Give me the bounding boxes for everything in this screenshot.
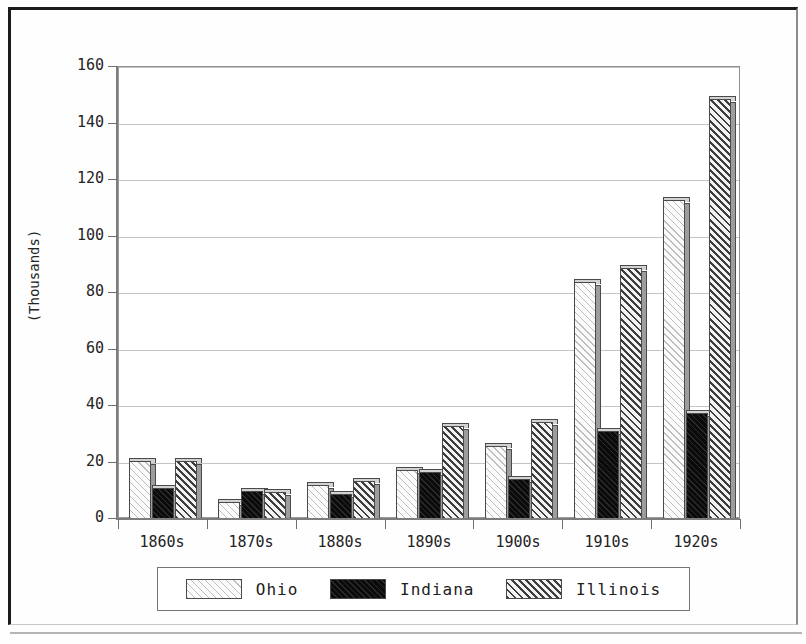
x-axis-tick-label: 1880s <box>295 533 385 551</box>
chart-page: (Thousands) 020406080100120140160 1860s1… <box>0 0 806 644</box>
bar-ohio-1870s <box>218 502 240 519</box>
legend-item-ohio[interactable]: Ohio <box>186 579 299 599</box>
y-axis-tick <box>108 236 117 237</box>
bar-indiana-1920s <box>686 413 708 519</box>
bar-side-face <box>197 464 202 519</box>
gridline <box>119 67 739 68</box>
y-axis-tick-label: 0 <box>42 510 104 525</box>
bar-ohio-1880s <box>307 485 329 519</box>
y-axis-tick <box>108 123 117 124</box>
y-axis-tick-label: 40 <box>42 397 104 412</box>
bar-side-face <box>731 102 736 519</box>
plot-area <box>118 66 740 518</box>
legend-label: Illinois <box>576 580 661 599</box>
bar-ohio-1910s <box>574 282 596 519</box>
y-axis-tick-label: 140 <box>42 115 104 130</box>
y-axis-tick <box>108 66 117 67</box>
bar-indiana-1860s <box>152 488 174 519</box>
bar-indiana-1870s <box>241 491 263 519</box>
y-axis-tick-label: 80 <box>42 284 104 299</box>
y-axis-tick <box>108 292 117 293</box>
y-axis-tick <box>108 405 117 406</box>
gridline <box>119 180 739 181</box>
bar-illinois-1920s <box>709 99 731 519</box>
x-axis-tick <box>296 519 297 529</box>
bar-indiana-1900s <box>508 479 530 519</box>
bar-illinois-1860s <box>175 461 197 519</box>
x-axis-tick <box>207 519 208 529</box>
y-axis-tick <box>108 179 117 180</box>
x-axis-tick-label: 1900s <box>473 533 563 551</box>
y-axis-tick <box>108 462 117 463</box>
bar-side-face <box>375 484 380 519</box>
x-axis-tick <box>562 519 563 529</box>
bar-indiana-1910s <box>597 431 619 519</box>
x-axis-tick-label: 1890s <box>384 533 474 551</box>
bar-side-face <box>642 271 647 519</box>
bar-indiana-1890s <box>419 472 441 519</box>
legend-label: Indiana <box>400 580 474 599</box>
x-axis-tick-label: 1860s <box>117 533 207 551</box>
x-axis-tick <box>651 519 652 529</box>
legend-label: Ohio <box>256 580 299 599</box>
bar-side-face <box>286 495 291 519</box>
y-axis-tick-label: 60 <box>42 341 104 356</box>
x-axis-tick-label: 1920s <box>651 533 741 551</box>
gridline <box>119 237 739 238</box>
x-axis-tick <box>473 519 474 529</box>
bar-indiana-1880s <box>330 494 352 519</box>
chart-legend: OhioIndianaIllinois <box>157 567 690 611</box>
y-axis-tick-label: 100 <box>42 228 104 243</box>
legend-item-indiana[interactable]: Indiana <box>330 579 474 599</box>
x-axis-tick-label: 1910s <box>562 533 652 551</box>
y-axis-tick-label: 160 <box>42 58 104 73</box>
x-axis-tick <box>740 519 741 529</box>
bar-illinois-1890s <box>442 426 464 519</box>
bar-illinois-1880s <box>353 481 375 519</box>
gridline <box>119 124 739 125</box>
bar-chart: (Thousands) 020406080100120140160 1860s1… <box>0 0 806 644</box>
bar-illinois-1900s <box>531 422 553 519</box>
bar-ohio-1860s <box>129 461 151 519</box>
x-axis-tick <box>385 519 386 529</box>
legend-swatch-indiana-icon <box>330 579 386 599</box>
legend-item-illinois[interactable]: Illinois <box>506 579 661 599</box>
x-axis-tick-label: 1870s <box>206 533 296 551</box>
y-axis-tick <box>108 349 117 350</box>
bar-ohio-1900s <box>485 446 507 519</box>
y-axis-tick-label: 20 <box>42 454 104 469</box>
bar-illinois-1910s <box>620 268 642 519</box>
bar-ohio-1890s <box>396 470 418 519</box>
bar-illinois-1870s <box>264 492 286 519</box>
y-axis-tick <box>108 518 117 519</box>
legend-swatch-ohio-icon <box>186 579 242 599</box>
bar-ohio-1920s <box>663 200 685 519</box>
y-axis-tick-label: 120 <box>42 171 104 186</box>
legend-swatch-illinois-icon <box>506 579 562 599</box>
y-axis-tick-labels: 020406080100120140160 <box>34 0 104 644</box>
x-axis-line <box>116 518 740 520</box>
bar-side-face <box>464 429 469 519</box>
x-axis-tick <box>118 519 119 529</box>
bar-side-face <box>553 425 558 519</box>
